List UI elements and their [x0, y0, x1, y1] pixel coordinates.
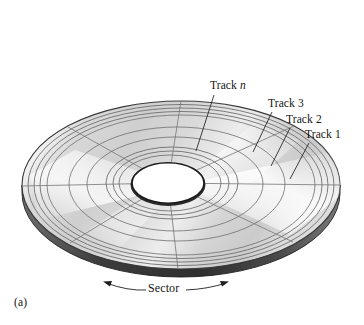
label-track-n: Track n [210, 80, 246, 92]
sector-arrowhead-left [103, 281, 112, 287]
label-track-2: Track 2 [286, 114, 322, 126]
disk-platter-illustration [0, 0, 364, 325]
figure-caption: (a) [14, 297, 27, 309]
sector-arrow-right-segment [186, 283, 226, 290]
figure-container: Track n Track 3 Track 2 Track 1 Sector (… [0, 0, 364, 325]
label-track-1: Track 1 [305, 129, 341, 141]
spindle-hole [131, 163, 206, 206]
label-track-n-prefix: Track [210, 79, 240, 91]
label-track-3: Track 3 [268, 98, 304, 110]
label-sector: Sector [148, 282, 179, 294]
sector-arrowhead-right [220, 281, 229, 287]
sector-arrow-left-segment [106, 283, 146, 290]
label-track-n-index: n [240, 79, 246, 91]
